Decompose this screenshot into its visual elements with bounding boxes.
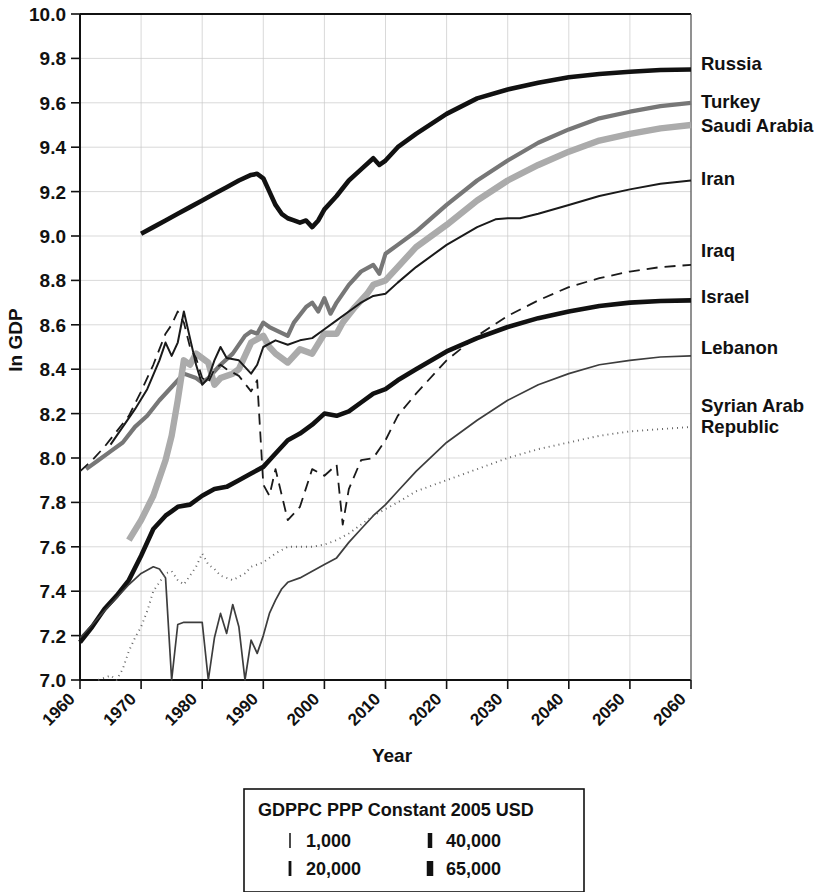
- legend-entries: 1,00020,00040,00065,000: [289, 831, 501, 879]
- legend-label-20000: 20,000: [306, 859, 361, 879]
- grid-lines: [80, 14, 691, 680]
- y-tick-label: 9.0: [40, 226, 66, 247]
- y-tick-label: 8.8: [40, 270, 66, 291]
- x-tick-label: 2030: [466, 689, 506, 729]
- x-tick-label: 1980: [161, 689, 201, 729]
- x-tick-label: 2060: [650, 689, 690, 729]
- series-label-israel: Israel: [701, 286, 749, 307]
- y-axis-title: ln GDP: [5, 308, 26, 372]
- x-tick-label: 2010: [344, 689, 384, 729]
- legend-swatch-20000: [289, 861, 292, 876]
- series-label-iraq: Iraq: [701, 240, 735, 261]
- x-tick-label: 1990: [222, 689, 262, 729]
- series-label-turkey: Turkey: [701, 91, 761, 112]
- y-tick-label: 7.0: [40, 670, 66, 691]
- series-label-russia: Russia: [701, 53, 762, 74]
- y-tick-label: 9.2: [40, 182, 66, 203]
- series-labels: RussiaTurkeySaudi ArabiaIranIraqIsraelLe…: [701, 53, 814, 437]
- x-tick-label: 2000: [283, 689, 323, 729]
- chart-svg: 10.09.89.69.49.29.08.88.68.48.28.07.87.6…: [0, 0, 820, 892]
- series-label-lebanon: Lebanon: [701, 337, 778, 358]
- y-tick-label: 7.2: [40, 626, 66, 647]
- y-tick-label: 9.8: [40, 48, 66, 69]
- x-tick-label: 2050: [589, 689, 629, 729]
- legend-title: GDPPC PPP Constant 2005 USD: [258, 800, 534, 820]
- chart-figure: 10.09.89.69.49.29.08.88.68.48.28.07.87.6…: [0, 0, 820, 892]
- legend-swatch-65000: [427, 861, 434, 876]
- x-axis-title: Year: [372, 745, 413, 766]
- legend-swatch-1000: [289, 833, 291, 848]
- series-line-iran: [111, 181, 691, 445]
- y-tick-label: 7.4: [40, 581, 67, 602]
- x-tick-marks: [80, 680, 691, 689]
- y-tick-label: 8.0: [40, 448, 66, 469]
- y-tick-label: 10.0: [29, 4, 66, 25]
- y-tick-marks: [71, 14, 80, 680]
- y-tick-label: 7.8: [40, 492, 66, 513]
- y-tick-label: 8.2: [40, 404, 66, 425]
- series-label-syrian-arab-republic: Syrian ArabRepublic: [701, 395, 804, 437]
- x-tick-label: 2040: [527, 689, 567, 729]
- y-tick-label: 9.4: [40, 137, 67, 158]
- legend-label-40000: 40,000: [446, 831, 501, 851]
- x-tick-label: 2020: [405, 689, 445, 729]
- x-tick-label: 1960: [39, 689, 79, 729]
- legend-label-1000: 1,000: [306, 831, 351, 851]
- y-tick-label: 8.4: [40, 359, 67, 380]
- series-line-syrian-arab-republic: [98, 427, 691, 680]
- series-label-iran: Iran: [701, 168, 735, 189]
- series-label-saudi-arabia: Saudi Arabia: [701, 115, 814, 136]
- legend-swatch-40000: [428, 833, 433, 848]
- y-tick-label: 7.6: [40, 537, 66, 558]
- series-line-russia: [141, 70, 691, 234]
- y-tick-label: 9.6: [40, 93, 66, 114]
- y-axis-tick-labels: 10.09.89.69.49.29.08.88.68.48.28.07.87.6…: [29, 4, 66, 691]
- y-tick-label: 8.6: [40, 315, 66, 336]
- legend-label-65000: 65,000: [446, 859, 501, 879]
- x-tick-label: 1970: [100, 689, 140, 729]
- x-axis-tick-labels: 1960197019801990200020102020203020402050…: [39, 689, 690, 729]
